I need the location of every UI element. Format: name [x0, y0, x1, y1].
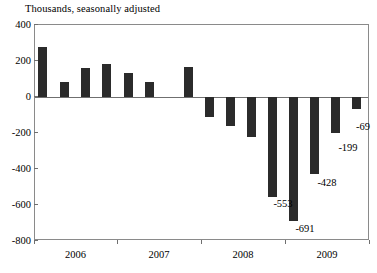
plot-area — [34, 24, 369, 240]
chart-subtitle: Thousands, seasonally adjusted — [25, 3, 160, 14]
bar — [310, 97, 319, 174]
bar — [81, 68, 90, 97]
bar — [124, 73, 133, 97]
y-tick-label: 200 — [0, 55, 31, 66]
data-label--199: -199 — [338, 142, 357, 153]
y-tick-mark — [34, 96, 38, 97]
x-tick-label-2006: 2006 — [65, 249, 86, 260]
x-tick-mark — [34, 240, 35, 244]
x-tick-mark — [285, 240, 286, 244]
bar — [145, 82, 154, 97]
y-tick-label: 0 — [0, 91, 31, 102]
bar — [226, 97, 235, 126]
x-tick-mark — [369, 240, 370, 244]
y-tick-label: -800 — [0, 235, 31, 246]
bar — [268, 97, 277, 197]
x-tick-label-2008: 2008 — [233, 249, 254, 260]
x-tick-label-2007: 2007 — [149, 249, 170, 260]
x-tick-mark — [117, 240, 118, 244]
plot-inner — [35, 25, 368, 239]
bar — [247, 97, 256, 137]
y-tick-mark — [34, 24, 38, 25]
y-tick-label: -600 — [0, 199, 31, 210]
bar — [60, 82, 69, 97]
y-tick-mark — [34, 204, 38, 205]
data-label--691: -691 — [295, 223, 314, 234]
y-tick-mark — [34, 132, 38, 133]
data-label--69: -69 — [356, 121, 370, 132]
y-tick-label: -200 — [0, 127, 31, 138]
data-label--553: -553 — [273, 198, 292, 209]
x-tick-mark — [201, 240, 202, 244]
bar — [331, 97, 340, 133]
y-tick-mark — [34, 60, 38, 61]
bar — [184, 67, 193, 97]
bar — [38, 47, 47, 97]
y-tick-label: 400 — [0, 19, 31, 30]
y-tick-label: -400 — [0, 163, 31, 174]
y-tick-mark — [34, 168, 38, 169]
data-label--428: -428 — [317, 177, 336, 188]
bar — [352, 97, 361, 109]
bar — [102, 64, 111, 97]
bar — [205, 97, 214, 117]
bar-chart: Thousands, seasonally adjusted 4002000-2… — [0, 0, 377, 273]
x-tick-label-2009: 2009 — [317, 249, 338, 260]
